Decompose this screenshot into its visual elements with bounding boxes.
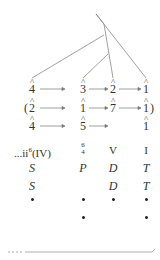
degree: 3 [73, 83, 93, 95]
branch-to-3 [83, 54, 108, 78]
branch-to-2 [104, 24, 113, 78]
function-d: D [103, 180, 123, 192]
harmony-ii6-iv: ...ii6(IV) [14, 144, 51, 159]
function-s: S [22, 162, 42, 174]
function-t: T [136, 180, 156, 192]
figure-4: 4 [78, 149, 88, 156]
harmony-i: I [136, 144, 156, 156]
degree: 2 [103, 83, 123, 95]
degree: 7 [103, 102, 123, 114]
degree: 1 [136, 83, 156, 95]
close-paren: ) [150, 102, 154, 114]
degree: 1 [136, 120, 156, 132]
degree: 2 [22, 102, 42, 114]
degree: 4 [22, 120, 42, 132]
degree: 5 [73, 120, 93, 132]
branch-to-4 [32, 35, 104, 78]
degree: 4 [22, 83, 42, 95]
function-s: S [22, 180, 42, 192]
degree: 1 [73, 102, 93, 114]
function-p: P [73, 162, 93, 174]
function-d: D [103, 162, 123, 174]
harmony-v: V [103, 144, 123, 156]
function-t: T [136, 162, 156, 174]
